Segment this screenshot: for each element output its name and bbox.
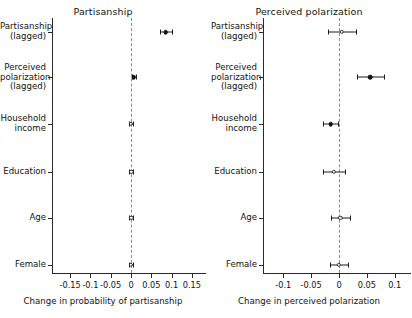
confidence-interval-cap bbox=[133, 170, 134, 175]
x-axis-tick-label: -0.05 bbox=[301, 280, 322, 290]
x-axis-tick bbox=[395, 274, 396, 278]
category-tick bbox=[48, 124, 52, 125]
panel-partisanship: PartisanshipChange in probability of par… bbox=[0, 0, 206, 318]
category-tick bbox=[259, 172, 263, 173]
x-axis-tick-label: 0.1 bbox=[388, 280, 401, 290]
confidence-interval-cap bbox=[172, 30, 173, 35]
estimate-point bbox=[132, 75, 137, 80]
x-axis-tick-label: 0.15 bbox=[183, 280, 201, 290]
x-axis-tick-label: 0.05 bbox=[142, 280, 160, 290]
x-axis-tick-label: 0 bbox=[336, 280, 341, 290]
category-label: Age bbox=[0, 213, 46, 223]
x-axis-tick bbox=[192, 274, 193, 278]
x-axis-tick bbox=[283, 274, 284, 278]
zero-reference-line bbox=[131, 18, 132, 273]
category-label: Perceived polarization (lagged) bbox=[0, 63, 46, 92]
category-label: Female bbox=[211, 260, 257, 270]
category-tick bbox=[48, 218, 52, 219]
category-label: Female bbox=[0, 260, 46, 270]
x-axis-tick-label: -0.1 bbox=[275, 280, 291, 290]
estimate-point bbox=[368, 75, 373, 80]
confidence-interval-cap bbox=[356, 30, 357, 35]
x-axis-tick-label: -0.15 bbox=[59, 280, 80, 290]
x-axis-tick-label: -0.05 bbox=[100, 280, 121, 290]
category-label: Perceived polarization (lagged) bbox=[211, 63, 257, 92]
confidence-interval-cap bbox=[348, 263, 349, 268]
x-axis-tick-label: 0.05 bbox=[358, 280, 376, 290]
estimate-point bbox=[163, 30, 168, 35]
category-label: Partisanship (lagged) bbox=[211, 22, 257, 41]
confidence-interval-cap bbox=[330, 263, 331, 268]
panel-title: Partisanship bbox=[0, 6, 206, 17]
x-axis-tick bbox=[131, 274, 132, 278]
confidence-interval-cap bbox=[328, 30, 329, 35]
x-axis-tick bbox=[111, 274, 112, 278]
confidence-interval-cap bbox=[323, 170, 324, 175]
category-tick bbox=[259, 265, 263, 266]
category-tick bbox=[259, 218, 263, 219]
category-tick bbox=[48, 32, 52, 33]
category-axis bbox=[263, 18, 264, 273]
confidence-interval-cap bbox=[133, 216, 134, 221]
x-axis-tick bbox=[367, 274, 368, 278]
value-axis bbox=[52, 273, 206, 274]
category-tick bbox=[48, 172, 52, 173]
category-label: Age bbox=[211, 213, 257, 223]
x-axis-tick bbox=[172, 274, 173, 278]
x-axis-tick-label: 0.1 bbox=[165, 280, 178, 290]
category-tick bbox=[259, 124, 263, 125]
category-label: Partisanship (lagged) bbox=[0, 22, 46, 41]
panel-perceived-polarization: Perceived polarizationChange in perceive… bbox=[206, 0, 412, 318]
category-label: Household income bbox=[211, 114, 257, 133]
category-label: Education bbox=[0, 167, 46, 177]
confidence-interval-cap bbox=[384, 75, 385, 80]
category-tick bbox=[48, 265, 52, 266]
category-tick bbox=[259, 32, 263, 33]
confidence-interval-cap bbox=[350, 216, 351, 221]
x-axis-tick bbox=[90, 274, 91, 278]
x-axis-title: Change in perceived polarization bbox=[206, 296, 412, 306]
x-axis-tick bbox=[70, 274, 71, 278]
category-axis bbox=[52, 18, 53, 273]
coefficient-plot-figure: PartisanshipChange in probability of par… bbox=[0, 0, 412, 318]
confidence-interval-cap bbox=[133, 263, 134, 268]
confidence-interval-cap bbox=[331, 216, 332, 221]
x-axis-tick bbox=[339, 274, 340, 278]
confidence-interval-cap bbox=[345, 170, 346, 175]
category-label: Education bbox=[211, 167, 257, 177]
zero-reference-line bbox=[339, 18, 340, 273]
confidence-interval-cap bbox=[323, 122, 324, 127]
x-axis-tick-label: 0 bbox=[128, 280, 133, 290]
value-axis bbox=[263, 273, 411, 274]
category-label: Household income bbox=[0, 114, 46, 133]
x-axis-tick bbox=[151, 274, 152, 278]
x-axis-tick bbox=[311, 274, 312, 278]
panel-title: Perceived polarization bbox=[206, 6, 412, 17]
confidence-interval-cap bbox=[338, 122, 339, 127]
estimate-point bbox=[328, 122, 333, 127]
confidence-interval-cap bbox=[357, 75, 358, 80]
x-axis-title: Change in probability of partisanship bbox=[0, 296, 206, 306]
confidence-interval-cap bbox=[160, 30, 161, 35]
x-axis-tick-label: -0.1 bbox=[82, 280, 98, 290]
